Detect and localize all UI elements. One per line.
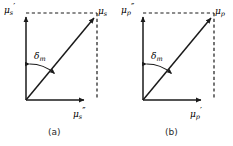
angle-arc: [147, 64, 172, 74]
panel-a: μs′ μs μs″ δm (a): [0, 0, 116, 146]
angle-label-b: δm: [151, 52, 163, 62]
panel-b-caption: (b): [165, 128, 178, 137]
angle-label-a: δm: [34, 52, 46, 62]
horizontal-axis-label-b: μp′: [190, 107, 202, 120]
resultant-label-a: μs: [98, 4, 107, 17]
vertical-axis-label-a: μs′: [4, 3, 15, 16]
resultant-label-b: μp: [215, 4, 225, 17]
vector-diagram-figure: μs′ μs μs″ δm (a): [0, 0, 233, 146]
angle-arc: [30, 64, 55, 74]
panel-b-vector-drawing: [117, 0, 233, 146]
horizontal-axis-label-a: μs″: [73, 107, 85, 120]
panel-a-vector-drawing: [0, 0, 116, 146]
panel-a-caption: (a): [48, 128, 61, 137]
vertical-axis-label-b: μp″: [121, 3, 134, 16]
panel-b: μp″ μp μp′ δm (b): [117, 0, 233, 146]
